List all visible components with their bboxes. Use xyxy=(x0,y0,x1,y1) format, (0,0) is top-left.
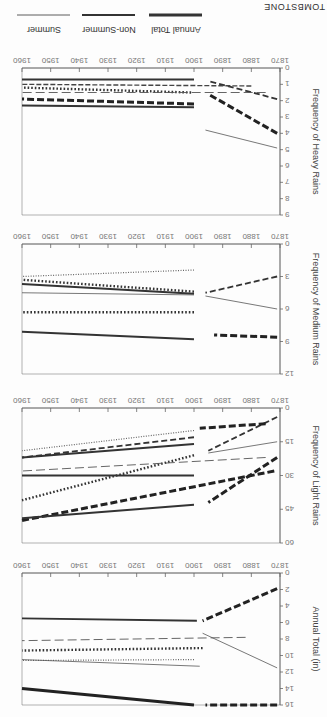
x-tick-label: 1950 xyxy=(41,396,59,405)
x-tick-label: 1960 xyxy=(13,56,31,65)
y-tick-label: 4 xyxy=(284,128,289,137)
series-line-solid-e xyxy=(22,618,197,620)
y-tick-label: 6 xyxy=(284,304,289,313)
x-tick-label: 1920 xyxy=(127,232,145,241)
series-line-thick-dashed-a-late xyxy=(22,99,194,104)
series-line-thin-b xyxy=(208,442,277,453)
y-tick-label: 9 xyxy=(284,337,289,346)
series-line-dash-a xyxy=(203,589,278,621)
panel-heavy: 0123456789187018801890190019101920193019… xyxy=(13,56,321,219)
series-line-thick-dashed-a xyxy=(208,94,277,133)
x-tick-label: 1930 xyxy=(99,232,117,241)
x-tick-label: 1940 xyxy=(70,561,88,570)
x-tick-label: 1910 xyxy=(156,56,174,65)
y-tick-label: 7 xyxy=(284,177,289,186)
series-line-thick-dash-c xyxy=(214,335,277,337)
y-tick-label: 4 xyxy=(284,601,289,610)
x-tick-label: 1880 xyxy=(242,56,260,65)
x-tick-label: 1890 xyxy=(213,561,231,570)
y-tick-label: 45 xyxy=(284,504,293,513)
series-line-solid-d xyxy=(22,332,194,340)
y-tick-label: 60 xyxy=(284,538,293,547)
series-line-thin-b xyxy=(205,296,277,309)
x-tick-label: 1900 xyxy=(185,561,203,570)
series-line-thick-dash-d xyxy=(22,471,274,521)
x-tick-label: 1890 xyxy=(213,396,231,405)
x-tick-label: 1910 xyxy=(156,232,174,241)
x-tick-label: 1880 xyxy=(242,396,260,405)
y-tick-label: 30 xyxy=(284,471,293,480)
series-line-dash-a xyxy=(205,277,277,293)
series-line-thick-solid-i xyxy=(22,689,194,706)
x-tick-label: 1930 xyxy=(99,561,117,570)
x-tick-label: 1960 xyxy=(13,232,31,241)
x-tick-label: 1890 xyxy=(213,56,231,65)
series-line-dash-b xyxy=(208,81,277,99)
x-tick-label: 1900 xyxy=(185,396,203,405)
y-tick-label: 16 xyxy=(284,700,293,709)
y-tick-label: 2 xyxy=(284,585,289,594)
series-line-thin-dash-h xyxy=(22,458,266,472)
x-tick-label: 1910 xyxy=(156,396,174,405)
y-axis-title: Annual Total (in) xyxy=(311,607,321,672)
panel-annual: 0246810121416187018801890190019101920193… xyxy=(13,561,321,709)
y-tick-label: 14 xyxy=(284,684,293,693)
y-tick-label: 6 xyxy=(284,618,289,627)
x-tick-label: 1880 xyxy=(242,561,260,570)
series-line-dotted-f xyxy=(22,648,203,650)
x-tick-label: 1930 xyxy=(99,396,117,405)
series-line-thin-dash-c xyxy=(22,637,246,640)
y-tick-label: 9 xyxy=(284,210,289,219)
x-tick-label: 1870 xyxy=(271,232,289,241)
panel-light: 0153045601870188018901900191019201930194… xyxy=(13,396,321,547)
x-tick-label: 1960 xyxy=(13,396,31,405)
series-line-solid-e xyxy=(22,505,194,519)
y-tick-label: 3 xyxy=(284,272,289,281)
legend-label: Non-Summer xyxy=(82,25,136,35)
y-tick-label: 15 xyxy=(284,437,293,446)
y-tick-label: 8 xyxy=(284,634,289,643)
legend-label: Annual Total xyxy=(151,25,200,35)
series-line-thin-dot-i xyxy=(22,270,194,277)
series-line-solid-i xyxy=(22,444,194,458)
series-line-thin-c xyxy=(205,130,277,148)
x-tick-label: 1940 xyxy=(70,396,88,405)
x-tick-label: 1870 xyxy=(271,561,289,570)
series-line-thick-dash-c xyxy=(208,458,277,503)
x-tick-label: 1910 xyxy=(156,561,174,570)
x-tick-label: 1880 xyxy=(242,232,260,241)
x-tick-label: 1900 xyxy=(185,232,203,241)
x-tick-label: 1950 xyxy=(41,56,59,65)
y-axis-title: Frequency of Heavy Rains xyxy=(311,88,321,195)
station-label: TOMBSTONE xyxy=(264,2,325,12)
y-tick-label: 12 xyxy=(284,369,293,378)
y-tick-label: 6 xyxy=(284,161,289,170)
y-tick-label: 12 xyxy=(284,667,293,676)
panel-medium: 0369121870188018901900191019201930194019… xyxy=(13,232,321,378)
x-tick-label: 1940 xyxy=(70,232,88,241)
x-tick-label: 1930 xyxy=(99,56,117,65)
y-tick-label: 3 xyxy=(284,112,289,121)
y-tick-label: 5 xyxy=(284,145,289,154)
series-line-dash-dot-g xyxy=(22,84,251,86)
x-tick-label: 1950 xyxy=(41,561,59,570)
x-tick-label: 1920 xyxy=(127,56,145,65)
y-tick-label: 10 xyxy=(284,651,293,660)
x-tick-label: 1870 xyxy=(271,56,289,65)
y-tick-label: 8 xyxy=(284,194,289,203)
legend: TOMBSTONEAnnual TotalNon-SummerSummer xyxy=(17,2,325,35)
y-axis-title: Frequency of Medium Rains xyxy=(311,253,321,366)
x-tick-label: 1940 xyxy=(70,56,88,65)
x-tick-label: 1920 xyxy=(127,561,145,570)
y-tick-label: 2 xyxy=(284,96,289,105)
rain-frequency-figure: TOMBSTONE 012345678918701880189019001910… xyxy=(0,0,327,717)
series-line-dash-a xyxy=(208,417,277,451)
y-axis-title: Frequency of Light Rains xyxy=(311,425,321,526)
series-line-solid-e xyxy=(22,106,194,108)
x-tick-label: 1870 xyxy=(271,396,289,405)
x-tick-label: 1900 xyxy=(185,56,203,65)
y-tick-label: 1 xyxy=(284,79,289,88)
x-tick-label: 1950 xyxy=(41,232,59,241)
legend-label: Summer xyxy=(27,25,61,35)
chart-canvas: 0123456789187018801890190019101920193019… xyxy=(0,0,327,717)
